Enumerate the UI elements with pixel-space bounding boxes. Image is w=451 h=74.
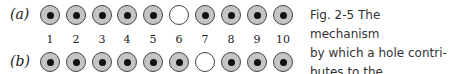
row-a-electron-3 [92, 5, 112, 25]
electron-dot-icon [124, 59, 131, 66]
row-b-electron-8 [221, 52, 241, 72]
electron-dot-icon [150, 59, 157, 66]
row-b-electron-6 [169, 52, 189, 72]
row-a-electron-9 [247, 5, 267, 25]
position-number: 3 [92, 33, 112, 46]
row-b-electron-1 [40, 52, 60, 72]
position-number: 1 [40, 33, 60, 46]
row-a-electron-5 [143, 5, 163, 25]
row-a-electron-8 [221, 5, 241, 25]
position-number: 9 [247, 33, 267, 46]
row-b-electron-9 [247, 52, 267, 72]
electron-dot-icon [280, 59, 287, 66]
row-b-electron-4 [117, 52, 137, 72]
electron-dot-icon [202, 12, 209, 19]
electron-dot-icon [73, 12, 80, 19]
position-number: 10 [273, 33, 293, 46]
row-a-hole-6 [169, 5, 189, 25]
figure-caption: Fig. 2-5 The mechanism by which a hole c… [310, 6, 451, 74]
row-b-hole-7 [195, 52, 215, 72]
electron-dot-icon [73, 59, 80, 66]
row-a-electron-7 [195, 5, 215, 25]
row-a-electron-2 [66, 5, 86, 25]
electron-dot-icon [99, 12, 106, 19]
electron-dot-icon [280, 12, 287, 19]
row-b-electron-3 [92, 52, 112, 72]
electron-dot-icon [99, 59, 106, 66]
caption-line: butes to the conductivity. [310, 63, 451, 74]
row-b-electron-2 [66, 52, 86, 72]
caption-line: by which a hole contri- [310, 44, 451, 63]
row-a-electron-10 [273, 5, 293, 25]
electron-dot-icon [254, 12, 261, 19]
position-number: 4 [117, 33, 137, 46]
electron-dot-icon [254, 59, 261, 66]
position-number: 5 [143, 33, 163, 46]
electron-dot-icon [176, 59, 183, 66]
row-label-a: (a) [10, 6, 29, 22]
position-number: 6 [169, 33, 189, 46]
row-b-electron-10 [273, 52, 293, 72]
electron-dot-icon [228, 59, 235, 66]
position-number: 8 [221, 33, 241, 46]
electron-dot-icon [150, 12, 157, 19]
electron-dot-icon [124, 12, 131, 19]
electron-dot-icon [47, 12, 54, 19]
row-label-b: (b) [10, 53, 30, 69]
electron-dot-icon [228, 12, 235, 19]
row-b-electron-5 [143, 52, 163, 72]
position-number: 2 [66, 33, 86, 46]
position-number: 7 [195, 33, 215, 46]
row-a-electron-4 [117, 5, 137, 25]
caption-line: Fig. 2-5 The mechanism [310, 6, 451, 44]
row-a-electron-1 [40, 5, 60, 25]
electron-dot-icon [47, 59, 54, 66]
